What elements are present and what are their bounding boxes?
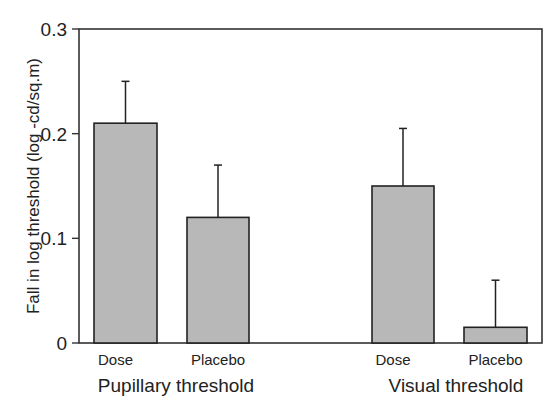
category-label: Dose xyxy=(98,351,133,368)
y-axis-ticks: 00.10.20.3 xyxy=(41,19,79,354)
group-label: Pupillary threshold xyxy=(98,375,254,396)
bar xyxy=(372,128,434,343)
y-tick-label: 0 xyxy=(56,333,67,354)
bar-rect xyxy=(94,123,157,343)
bar-rect xyxy=(187,217,249,343)
group-label: Visual threshold xyxy=(389,375,524,396)
y-tick-label: 0.3 xyxy=(41,19,67,40)
bar-rect xyxy=(464,327,527,343)
y-tick-label: 0.2 xyxy=(41,124,67,145)
bar-chart: 00.10.20.3 DosePlaceboDosePlacebo Pupill… xyxy=(0,0,553,419)
category-labels: DosePlaceboDosePlacebo xyxy=(98,351,523,368)
bar xyxy=(187,165,249,343)
category-label: Dose xyxy=(375,351,410,368)
y-axis-label: Fall in log threshold (log -cd/sq.m) xyxy=(24,58,43,314)
group-labels: Pupillary thresholdVisual threshold xyxy=(98,375,524,396)
category-label: Placebo xyxy=(468,351,522,368)
category-label: Placebo xyxy=(191,351,245,368)
bars xyxy=(94,81,527,343)
bar xyxy=(464,280,527,343)
y-tick-label: 0.1 xyxy=(41,228,67,249)
bar xyxy=(94,81,157,343)
bar-rect xyxy=(372,186,434,343)
